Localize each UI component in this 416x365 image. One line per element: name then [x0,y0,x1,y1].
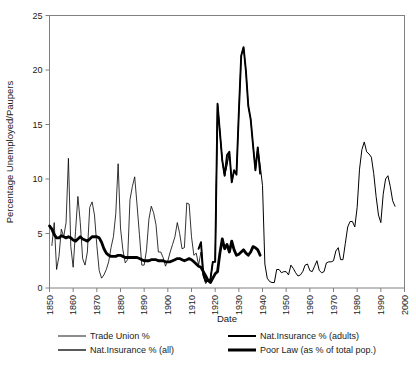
y-tick-label: 20 [32,65,42,75]
unemployment-line-chart: Percentage Unemployed/Paupers 0510152025… [0,0,416,365]
x-tick-label: 1950 [281,295,291,315]
x-tick-label: 2000 [400,295,410,315]
x-tick-label: 1910 [187,295,197,315]
x-tick-label: 1870 [92,295,102,315]
legend-label-0: Trade Union % [90,331,150,341]
chart-container: Percentage Unemployed/Paupers 0510152025… [0,0,416,365]
x-tick-label: 1960 [305,295,315,315]
legend-label-3: Poor Law (as % of total pop.) [260,345,376,355]
y-tick-label: 10 [32,174,42,184]
x-tick-label: 1990 [376,295,386,315]
x-tick-label: 1970 [329,295,339,315]
y-axis-title-text: Percentage Unemployed/Paupers [4,80,15,223]
legend-label-2: Nat.Insurance % (all) [90,345,174,355]
x-tick-label: 1860 [68,295,78,315]
x-tick-label: 1940 [258,295,268,315]
y-tick-label: 25 [32,11,42,21]
x-tick-label: 1880 [116,295,126,315]
x-tick-label: 1900 [163,295,173,315]
y-axis-title: Percentage Unemployed/Paupers [4,80,15,223]
x-tick-label: 1850 [45,295,55,315]
y-tick-label: 5 [37,229,42,239]
y-tick-label: 15 [32,120,42,130]
legend-label-1: Nat.Insurance % (adults) [260,331,359,341]
y-tick-label: 0 [37,283,42,293]
x-axis-title: Date [217,313,237,324]
x-tick-label: 1980 [352,295,362,315]
x-tick-label: 1890 [139,295,149,315]
